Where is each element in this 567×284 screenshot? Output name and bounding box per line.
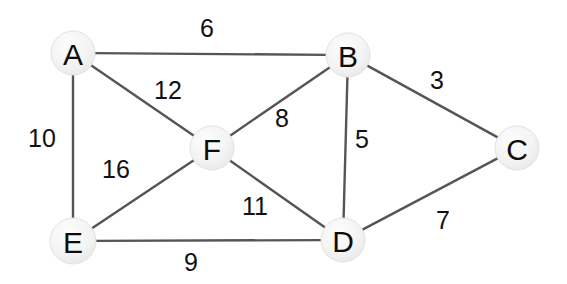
graph-node-c[interactable]: C xyxy=(495,126,539,170)
edge-weight-bd: 5 xyxy=(355,127,369,152)
edge-weight-bc: 3 xyxy=(430,68,444,93)
graph-node-f[interactable]: F xyxy=(190,126,234,170)
node-label-e: E xyxy=(63,226,83,259)
graph-node-b[interactable]: B xyxy=(326,33,370,77)
edge-weight-fd: 11 xyxy=(242,194,268,219)
edge-weight-ae: 10 xyxy=(28,126,56,151)
graph-edge-ed[interactable] xyxy=(95,240,322,241)
graph-edge-ab[interactable] xyxy=(94,53,327,55)
graph-node-e[interactable]: E xyxy=(50,218,96,264)
edge-weight-ef: 16 xyxy=(102,157,130,182)
edge-weight-cd: 7 xyxy=(436,208,450,233)
edge-weight-bf: 8 xyxy=(275,106,289,131)
edge-weight-ab: 6 xyxy=(200,16,214,41)
node-label-f: F xyxy=(203,133,221,166)
graph-edge-bd[interactable] xyxy=(344,76,348,219)
node-label-d: D xyxy=(332,225,354,258)
graph-edge-cd[interactable] xyxy=(362,158,499,230)
nodes-layer: ABCDEF xyxy=(50,31,539,264)
edge-weight-ed: 9 xyxy=(184,250,198,275)
graph-node-d[interactable]: D xyxy=(321,218,365,262)
node-label-a: A xyxy=(63,38,83,71)
graph-node-a[interactable]: A xyxy=(51,31,95,75)
graph-svg: ABCDEF xyxy=(0,0,567,284)
node-label-b: B xyxy=(338,40,358,73)
graph-diagram-canvas: ABCDEF 61210385716119 xyxy=(0,0,567,284)
edge-weight-af: 12 xyxy=(154,78,182,103)
node-label-c: C xyxy=(506,133,528,166)
